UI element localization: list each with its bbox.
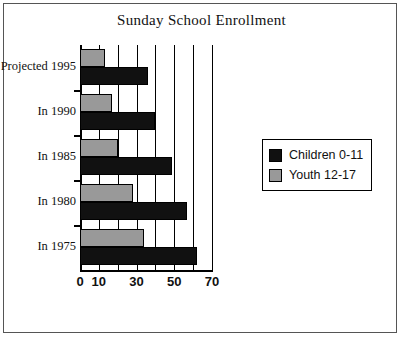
legend-swatch-children-icon	[269, 149, 282, 162]
chart-legend: Children 0-11 Youth 12-17	[262, 139, 372, 191]
x-tick-70	[212, 266, 213, 272]
bar-children-0	[80, 67, 148, 85]
legend-item-youth: Youth 12-17	[269, 165, 365, 185]
chart-title: Sunday School Enrollment	[0, 12, 403, 29]
category-label-1: In 1990	[37, 104, 76, 119]
bar-youth-4	[80, 229, 144, 247]
legend-label-youth: Youth 12-17	[289, 168, 356, 182]
chart-page: Sunday School Enrollment Projected 1995I…	[0, 0, 403, 340]
x-tick-label-30: 30	[129, 274, 143, 289]
x-tick-label-10: 10	[92, 274, 106, 289]
plot-area	[80, 45, 212, 270]
x-tick-label-50: 50	[167, 274, 181, 289]
category-label-4: In 1975	[37, 239, 76, 254]
legend-swatch-youth-icon	[269, 169, 282, 182]
bar-children-3	[80, 202, 187, 220]
bar-youth-3	[80, 184, 133, 202]
bar-youth-0	[80, 49, 105, 67]
bar-children-2	[80, 157, 172, 175]
x-tick-label-70: 70	[205, 274, 219, 289]
bar-youth-1	[80, 94, 112, 112]
bar-youth-2	[80, 139, 118, 157]
category-label-3: In 1980	[37, 194, 76, 209]
legend-label-children: Children 0-11	[289, 148, 363, 162]
x-tick-label-0: 0	[76, 274, 83, 289]
gridline-70	[212, 45, 213, 270]
category-label-0: Projected 1995	[1, 59, 76, 74]
legend-item-children: Children 0-11	[269, 145, 365, 165]
bar-children-4	[80, 247, 197, 265]
bar-children-1	[80, 112, 155, 130]
category-label-2: In 1985	[37, 149, 76, 164]
